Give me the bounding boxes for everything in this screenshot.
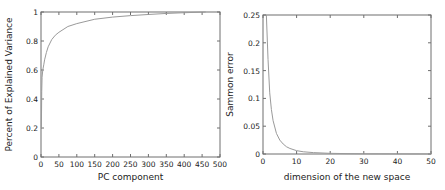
y-tick-label: 0.2 [248,39,260,48]
sammon-error-chart: 0102030405000.050.10.150.20.25dimension … [225,11,436,182]
y-axis-label: Sammon error [225,52,235,117]
y-tick-label: 0.8 [26,37,38,46]
x-tick-label: 10 [292,157,302,166]
y-tick-label: 0.1 [248,94,260,103]
x-tick-label: 250 [123,160,138,169]
y-tick-label: 0.25 [243,11,260,20]
y-tick-label: 0.05 [243,122,260,131]
plot-frame [41,12,220,157]
x-tick-label: 50 [54,160,64,169]
x-tick-label: 300 [141,160,156,169]
x-tick-label: 40 [393,157,403,166]
y-axis-label: Percent of Explained Variance [4,17,14,152]
x-tick-label: 20 [325,157,335,166]
y-tick-label: 0.4 [26,95,38,104]
x-tick-label: 350 [159,160,174,169]
series-line [266,15,431,154]
y-tick-label: 1 [33,8,38,17]
x-tick-label: 0 [261,157,266,166]
x-tick-label: 400 [177,160,192,169]
y-tick-label: 0.15 [243,67,260,76]
explained-variance-chart: 05010015020025030035040045050000.20.40.6… [4,8,227,182]
plot-frame [263,15,431,154]
y-tick-label: 0.6 [26,66,38,75]
y-tick-label: 0.2 [26,124,38,133]
y-tick-label: 0 [33,153,38,162]
x-tick-label: 0 [39,160,44,169]
x-axis-label: PC component [98,172,164,182]
x-tick-label: 150 [88,160,103,169]
x-tick-label: 30 [359,157,369,166]
x-tick-label: 200 [105,160,120,169]
x-tick-label: 100 [70,160,85,169]
y-tick-label: 0 [255,150,260,159]
series-line [41,12,205,128]
x-tick-label: 50 [426,157,436,166]
figure: 05010015020025030035040045050000.20.40.6… [0,0,445,190]
x-tick-label: 500 [213,160,228,169]
x-axis-label: dimension of the new space [284,172,411,182]
x-tick-label: 450 [195,160,210,169]
